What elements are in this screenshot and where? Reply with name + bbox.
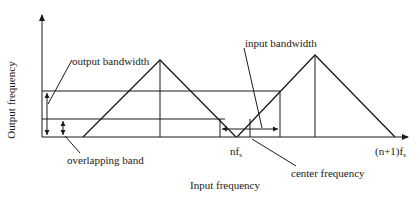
tick-label-n1fs: (n+1)fs <box>375 145 406 159</box>
tick-nfs-main: nf <box>230 145 240 157</box>
x-axis-label: Input frequency <box>190 179 260 191</box>
output-bandwidth-label: output bandwidth <box>72 55 150 67</box>
tick-n1fs-main: (n+1)f <box>375 145 404 158</box>
tick-label-nfs: nfs <box>230 145 242 159</box>
center-frequency-label: center frequency <box>291 167 365 179</box>
triangle-n <box>83 60 236 137</box>
tick-nfs-sub: s <box>239 151 242 159</box>
output-band-guides <box>42 91 280 119</box>
triangle-n-plus-1 <box>237 55 395 137</box>
overlapping-band-label: overlapping band <box>67 154 144 166</box>
frequency-mapping-diagram: Output frequency Input frequency output … <box>0 0 420 199</box>
input-bandwidth-label: input bandwidth <box>245 37 317 49</box>
tick-n1fs-sub: s <box>403 151 406 159</box>
y-axis-label: Output frequency <box>5 61 17 139</box>
